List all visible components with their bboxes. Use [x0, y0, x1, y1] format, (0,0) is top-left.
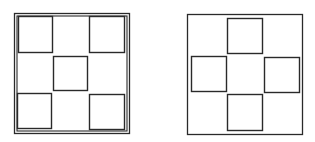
right-figure-plus-pattern [188, 15, 303, 135]
square-center [54, 57, 88, 91]
square-bottom-right [90, 95, 125, 130]
square-left [192, 57, 227, 92]
square-bottom-left [18, 94, 52, 129]
outer-frame [15, 14, 130, 134]
square-right [265, 58, 300, 93]
square-top-left [19, 17, 53, 53]
square-bottom [228, 95, 263, 131]
diagram-canvas [0, 0, 315, 142]
square-top [228, 19, 263, 54]
square-top-right [90, 17, 125, 53]
inner-frame [17, 16, 127, 131]
left-figure-x-pattern [15, 14, 130, 134]
outer-frame [188, 15, 303, 135]
